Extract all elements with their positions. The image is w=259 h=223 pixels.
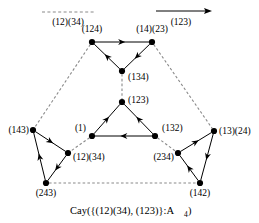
edge-142-to-234-arrow-icon [187,165,194,172]
vertex-label-v243: (243) [36,188,57,199]
figure-container: (12)(34) (123) (124)(14)(23)(134)(123)(1… [0,0,259,223]
vertex-label-v124: (124) [82,24,103,35]
edge-1234-to-243-arrow-icon [55,163,62,170]
edge-234-to-1324-arrow-icon [191,140,199,146]
vertex-v243[interactable] [43,180,49,186]
vertex-v234[interactable] [175,150,181,156]
caption-close-paren: ) [188,205,192,217]
vertex-v1234[interactable] [65,150,71,156]
vertex-label-v1: (1) [75,123,86,134]
figure-caption: Cay({(12)(34), (123)}:A 4 ) [70,205,192,219]
edges-layer [34,39,214,183]
edge-124-to-143 [35,44,91,127]
vertex-label-v1324: (13)(24) [219,126,251,137]
cayley-graph-figure: (12)(34) (123) (124)(14)(23)(134)(123)(1… [0,0,259,223]
vertex-label-v1234: (12)(34) [73,152,105,163]
vertex-label-v123: (123) [128,95,149,106]
caption-main-text: Cay({(12)(34), (123)}:A [70,205,174,217]
vertices-layer: (124)(14)(23)(134)(123)(1)(132)(143)(13)… [8,24,250,199]
vertex-v1324[interactable] [211,128,217,134]
vertex-label-v132: (132) [162,123,183,134]
legend-solid-label: (123) [171,17,192,28]
edge-132-to-234 [157,138,175,151]
vertex-label-v1423: (14)(23) [136,24,168,35]
vertex-v123[interactable] [119,99,125,105]
vertex-v124[interactable] [89,39,95,45]
edge-1-to-1234 [70,138,89,152]
vertex-v143[interactable] [30,127,36,133]
vertex-v142[interactable] [197,180,203,186]
vertex-label-v134: (134) [128,72,149,83]
edge-1423-to-1324 [154,44,213,128]
vertex-v134[interactable] [119,68,125,74]
vertex-v132[interactable] [152,133,158,139]
vertex-label-v142: (142) [190,188,211,199]
edge-143-to-1234-arrow-icon [46,137,53,143]
vertex-label-v234: (234) [153,152,174,163]
vertex-v1423[interactable] [149,39,155,45]
vertex-v1[interactable] [89,133,95,139]
legend-dashed-label: (12)(34) [52,17,84,28]
vertex-label-v143: (143) [8,125,29,136]
